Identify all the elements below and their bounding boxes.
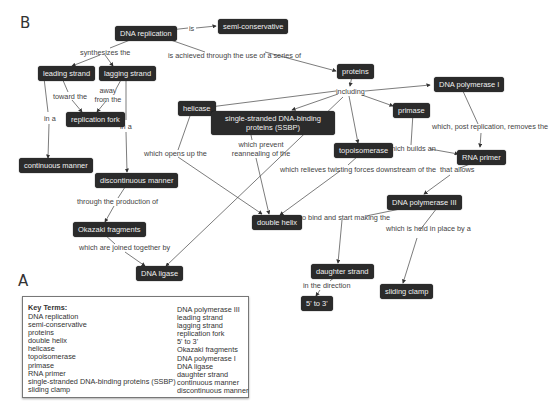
node-leading-strand[interactable]: leading strand [38,66,95,81]
link-label-through-production: through the production of [77,197,158,206]
node-proteins[interactable]: proteins [337,64,374,79]
link-label-prevent: which prevent reannealing of the [231,140,291,158]
key-term: sliding clamp [28,386,176,394]
node-dna-polymerase-3[interactable]: DNA polymerase III [387,195,462,210]
node-discontinuous-manner[interactable]: discontinuous manner [95,173,178,188]
node-semi-conservative[interactable]: semi-conservative [218,19,288,34]
node-double-helix[interactable]: double helix [252,215,302,230]
link-label-relieves: which relieves twisting forces downstrea… [280,165,436,174]
link-label-opens: which opens up the [144,149,207,158]
node-dna-replication[interactable]: DNA replication [115,26,177,41]
link-label-synthesizes: synthesizes the [80,48,130,57]
link-label-achieved: is achieved through the use of a series … [168,51,301,60]
link-label-direction: in the direction [303,281,350,290]
link-label-joined: which are joined together by [79,243,170,252]
link-label-post-replication: which, post replication, removes the [432,122,548,131]
node-helicase[interactable]: helicase [178,101,216,116]
node-dna-polymerase-1[interactable]: DNA polymerase I [434,77,504,92]
node-daughter-strand[interactable]: daughter strand [311,264,374,279]
node-ssbp[interactable]: single-stranded DNA-binding proteins (SS… [211,111,335,135]
node-sliding-clamp[interactable]: sliding clamp [380,284,433,299]
key-terms-column-2: DNA polymerase III leading strand laggin… [177,306,248,395]
link-label-including: including [336,87,365,96]
node-replication-fork[interactable]: replication fork [66,112,125,127]
link-label-bind: to bind and start making the [300,213,390,222]
link-label-builds: which builds an [386,144,436,153]
node-topoisomerase[interactable]: topoisomerase [334,143,393,158]
link-label-allows: that allows [440,165,474,174]
node-ssbp-label: single-stranded DNA-binding proteins (SS… [225,114,321,132]
link-label-away: away from the [92,86,124,104]
key-terms-column-1: DNA replication semi-conservative protei… [28,313,176,394]
node-rna-primer[interactable]: RNA primer [457,150,506,165]
node-dna-ligase[interactable]: DNA ligase [136,266,183,281]
link-label-toward: toward the [53,92,87,101]
key-terms-title: Key Terms: [28,303,67,312]
key-terms-box: Key Terms: DNA replication semi-conserva… [22,296,249,398]
node-continuous-manner[interactable]: continuous manner [19,158,93,173]
link-label-is: is [189,24,194,33]
link-label-in-a-leading: in a [44,114,56,123]
node-5-to-3[interactable]: 5' to 3' [301,296,333,311]
node-okazaki-fragments[interactable]: Okazaki fragments [73,222,146,237]
node-lagging-strand[interactable]: lagging strand [99,66,156,81]
node-primase[interactable]: primase [393,103,430,118]
key-term: discontinuous manner [177,387,248,395]
link-label-held: which is held in place by a [386,224,471,233]
